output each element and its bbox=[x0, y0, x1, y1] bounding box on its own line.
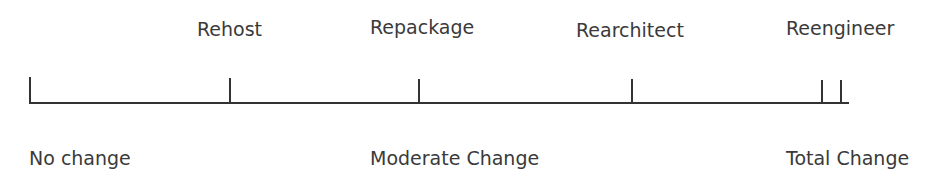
tick-rehost bbox=[229, 78, 231, 104]
tick-rearchitect bbox=[631, 79, 633, 104]
scale-label-no-change: No change bbox=[29, 149, 131, 168]
approach-label-repackage: Repackage bbox=[370, 18, 474, 37]
approach-label-rehost: Rehost bbox=[197, 20, 262, 39]
tick-reengineer-a bbox=[821, 80, 823, 104]
scale-label-total-change: Total Change bbox=[786, 149, 909, 168]
scale-label-moderate-change: Moderate Change bbox=[370, 149, 539, 168]
approach-label-reengineer: Reengineer bbox=[786, 19, 894, 38]
tick-start bbox=[29, 77, 31, 104]
spectrum-axis-line bbox=[29, 102, 849, 104]
tick-repackage bbox=[418, 79, 420, 104]
approach-label-rearchitect: Rearchitect bbox=[576, 21, 684, 40]
tick-reengineer-b bbox=[840, 80, 842, 104]
change-spectrum-diagram: Rehost Repackage Rearchitect Reengineer … bbox=[0, 0, 948, 178]
